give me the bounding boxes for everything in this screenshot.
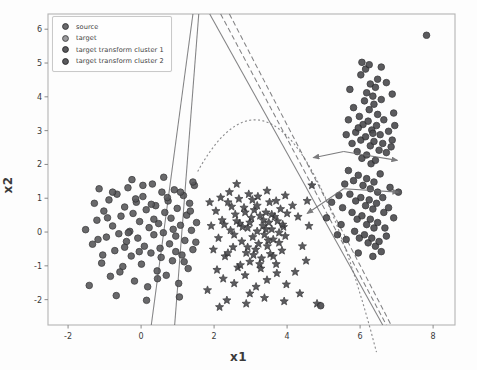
svg-text:-1: -1 <box>34 262 42 271</box>
svg-text:6: 6 <box>358 332 363 341</box>
x-axis-label: x1 <box>0 350 477 364</box>
legend-label: target transform cluster 1 <box>76 46 164 54</box>
svg-text:0: 0 <box>139 332 144 341</box>
circle-marker-icon <box>58 34 72 43</box>
svg-text:-2: -2 <box>64 332 72 341</box>
svg-text:3: 3 <box>37 127 42 136</box>
svg-text:4: 4 <box>285 332 290 341</box>
circle-marker-icon <box>58 57 72 66</box>
circle-marker-icon <box>58 45 72 54</box>
svg-text:6: 6 <box>37 25 42 34</box>
legend-item[interactable]: source <box>58 21 164 33</box>
svg-text:0: 0 <box>37 228 42 237</box>
svg-text:4: 4 <box>37 93 42 102</box>
svg-text:-2: -2 <box>34 296 42 305</box>
y-axis-label: x2 <box>0 165 193 205</box>
legend-item[interactable]: target <box>58 33 164 45</box>
legend-item[interactable]: target transform cluster 2 <box>58 56 164 68</box>
legend-item[interactable]: target transform cluster 1 <box>58 44 164 56</box>
svg-text:8: 8 <box>431 332 436 341</box>
figure-container: -202468-2-10123456 source target target … <box>0 0 477 370</box>
svg-text:5: 5 <box>37 59 42 68</box>
legend-label: target <box>76 34 97 42</box>
legend-label: target transform cluster 2 <box>76 57 164 65</box>
legend: source target target transform cluster 1… <box>52 16 172 72</box>
circle-marker-icon <box>58 22 72 31</box>
legend-label: source <box>76 23 99 31</box>
svg-text:2: 2 <box>212 332 217 341</box>
